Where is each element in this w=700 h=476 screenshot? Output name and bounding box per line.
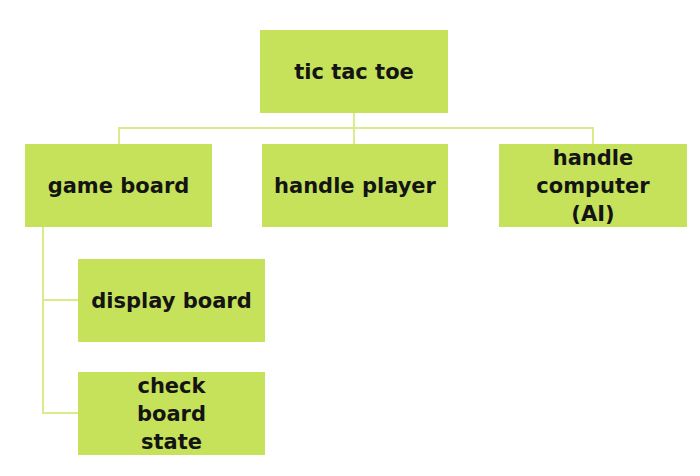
connector-handle-player xyxy=(353,127,355,144)
connector-game-board xyxy=(118,127,120,144)
node-label: check board state xyxy=(104,372,239,456)
connector-check-board-state xyxy=(42,412,78,414)
connector-horizontal xyxy=(118,127,594,129)
node-label: handle player xyxy=(274,172,436,200)
node-game-board: game board xyxy=(25,144,212,227)
node-check-board-state: check board state xyxy=(78,372,265,455)
node-display-board: display board xyxy=(78,259,265,342)
node-tic-tac-toe: tic tac toe xyxy=(260,30,448,113)
connector-game-board-vertical xyxy=(42,227,44,414)
node-handle-computer: handle computer (AI) xyxy=(499,144,687,227)
connector-handle-computer xyxy=(592,127,594,144)
node-label: game board xyxy=(48,172,190,200)
node-label: handle computer (AI) xyxy=(521,144,665,228)
node-handle-player: handle player xyxy=(262,144,448,227)
node-label: display board xyxy=(91,287,252,315)
connector-display-board xyxy=(42,299,78,301)
node-label: tic tac toe xyxy=(294,58,414,86)
